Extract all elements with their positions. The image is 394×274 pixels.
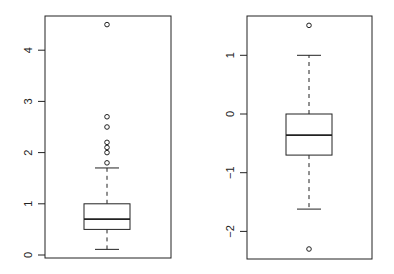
y-tick-label: −2 xyxy=(224,225,236,238)
boxplot-figure: 01234 −2−101 xyxy=(0,0,394,274)
y-tick-label: 1 xyxy=(224,52,236,58)
iqr-box xyxy=(84,204,130,230)
y-tick-label: −1 xyxy=(224,166,236,179)
outlier-point xyxy=(105,22,110,27)
y-tick-label: 0 xyxy=(22,252,34,258)
y-tick-label: 4 xyxy=(22,47,34,53)
outlier-point xyxy=(105,140,110,145)
y-tick-label: 2 xyxy=(22,150,34,156)
right-boxplot-panel: −2−101 xyxy=(224,16,372,259)
left-boxplot-panel: 01234 xyxy=(22,16,171,258)
y-tick-label: 3 xyxy=(22,98,34,104)
y-tick-label: 1 xyxy=(22,201,34,207)
outlier-point xyxy=(307,23,312,28)
outlier-point xyxy=(105,125,110,130)
outlier-point xyxy=(105,145,110,150)
outlier-point xyxy=(105,150,110,155)
outlier-point xyxy=(105,114,110,119)
y-tick-label: 0 xyxy=(224,111,236,117)
outlier-point xyxy=(105,161,110,166)
outlier-point xyxy=(307,247,312,252)
